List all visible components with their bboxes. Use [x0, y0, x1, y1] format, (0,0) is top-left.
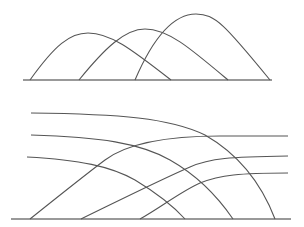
increasing-curve-2 — [81, 156, 288, 219]
decreasing-curve-3 — [27, 157, 185, 219]
hump-curve-3 — [135, 14, 270, 80]
hump-curve-1 — [30, 33, 171, 80]
diagram-svg — [0, 0, 304, 227]
decreasing-curve-1 — [31, 113, 275, 219]
top-panel — [23, 14, 272, 80]
diagram-canvas — [0, 0, 304, 227]
increasing-curve-1 — [30, 136, 288, 219]
decreasing-curve-2 — [31, 135, 233, 219]
bottom-panel — [11, 113, 291, 219]
hump-curve-2 — [79, 29, 228, 80]
